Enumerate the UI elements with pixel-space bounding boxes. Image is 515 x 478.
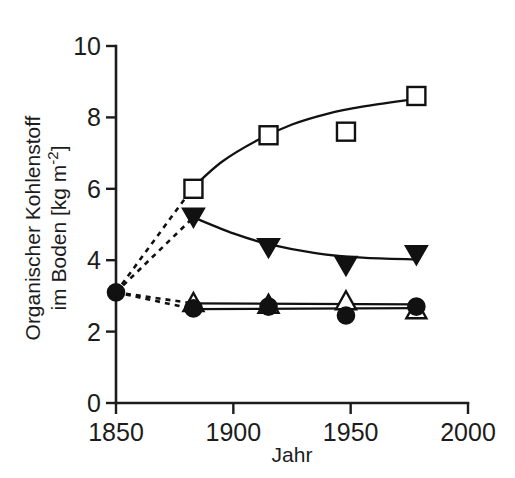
x-axis-tick-labels: 1850190019502000 <box>88 418 496 446</box>
y-tick-label-2: 2 <box>87 318 101 346</box>
y-tick-label-8: 8 <box>87 103 101 131</box>
trend-line-filled-circle <box>193 308 416 309</box>
marker-filled-circle-1978 <box>408 298 425 315</box>
x-tick-label-1900: 1900 <box>206 418 262 446</box>
marker-origin-1850 <box>108 284 125 301</box>
y-tick-label-10: 10 <box>73 32 101 60</box>
soil-organic-carbon-chart: 0246810 1850190019502000 Jahr Organische… <box>0 0 515 478</box>
y-axis-title-superscript: -2 <box>44 151 61 164</box>
marker-open-square-1948 <box>337 123 355 141</box>
marker-filled-down-triangle-1978 <box>405 246 427 265</box>
x-axis-title: Jahr <box>272 443 313 466</box>
dashed-lead-filled-circle <box>116 292 193 309</box>
chart-figure: 0246810 1850190019502000 Jahr Organische… <box>0 0 515 478</box>
data-point-markers <box>108 87 428 324</box>
x-tick-label-1950: 1950 <box>323 418 379 446</box>
dashed-lead-open-square <box>116 187 193 292</box>
y-tick-label-4: 4 <box>87 246 101 274</box>
trend-line-open-up-triangle <box>193 303 416 304</box>
marker-filled-circle-1915 <box>260 298 277 315</box>
x-tick-label-2000: 2000 <box>440 418 496 446</box>
y-axis-title-line1: Organischer Kohlenstoff <box>21 115 44 340</box>
fitted-trend-lines <box>193 99 416 309</box>
dashed-lead-filled-down-triangle <box>116 217 193 292</box>
marker-filled-circle-1883 <box>185 300 202 317</box>
dashed-lead-lines <box>116 187 193 309</box>
marker-open-square-1883 <box>184 180 202 198</box>
marker-open-square-1915 <box>260 126 278 144</box>
x-tick-label-1850: 1850 <box>88 418 144 446</box>
svg-text:Organischer Kohlenstoff: Organischer Kohlenstoff <box>21 115 44 340</box>
marker-filled-down-triangle-1883 <box>182 208 204 227</box>
y-axis-title-line2: im Boden [kg m <box>47 165 70 311</box>
trend-line-open-square <box>193 99 416 187</box>
y-axis-title: Organischer Kohlenstoff im Boden [kg m-2… <box>21 115 70 340</box>
marker-filled-down-triangle-1915 <box>258 239 280 258</box>
marker-filled-circle-1948 <box>337 307 354 324</box>
marker-open-square-1978 <box>407 87 425 105</box>
y-axis-ticks <box>106 46 116 403</box>
y-axis-tick-labels: 0246810 <box>73 32 101 417</box>
marker-filled-down-triangle-1948 <box>335 257 357 276</box>
x-axis-ticks <box>116 403 468 414</box>
trend-line-filled-down-triangle <box>193 217 416 259</box>
y-tick-label-0: 0 <box>87 389 101 417</box>
y-tick-label-6: 6 <box>87 175 101 203</box>
y-axis-title-line2-close: ] <box>47 145 70 151</box>
svg-text:im Boden [kg m-2]: im Boden [kg m-2] <box>44 145 70 310</box>
